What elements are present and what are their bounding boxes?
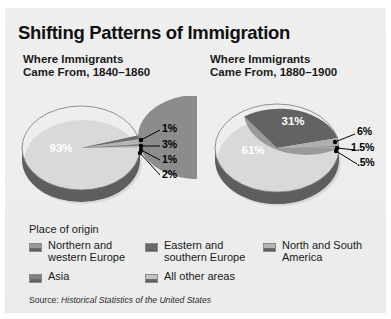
pie-left-callout-1: 1% — [162, 122, 177, 134]
pie-left-callout-3: 1% — [162, 153, 177, 165]
pie-chart-1840-1860: 93% 1% 3% 1% 2% — [17, 96, 197, 211]
legend-item-asia: Asia — [29, 271, 141, 283]
legend-item-label: All other areas — [164, 271, 235, 283]
pie-left-callout-4: 2% — [162, 168, 177, 180]
chart-subtitle-left: Where Immigrants Came From, 1840–1860 — [23, 53, 150, 79]
legend-item-eastern-southern-europe: Eastern and southern Europe — [145, 240, 257, 263]
pie-right-second-value: 31% — [281, 115, 304, 127]
pie-left-main-value: 93% — [49, 142, 72, 154]
figure-panel: Shifting Patterns of Immigration Where I… — [5, 8, 386, 313]
legend-swatch-icon — [263, 243, 276, 252]
legend-swatch-icon — [29, 243, 42, 252]
chart-subtitle-left-line2: Came From, 1840–1860 — [23, 66, 150, 79]
pie-left-callout-2: 3% — [162, 138, 177, 150]
legend-item-all-other-areas: All other areas — [145, 271, 263, 283]
source-title: Historical Statistics of the United Stat… — [61, 295, 211, 305]
legend-swatch-icon — [145, 243, 158, 252]
pie-right-main-value: 61% — [241, 144, 264, 156]
legend-item-northern-western-europe: Northern and western Europe — [29, 240, 141, 263]
legend-item-north-south-america: North and South America — [263, 240, 381, 263]
chart-subtitle-left-line1: Where Immigrants — [23, 53, 150, 66]
legend-item-label: Eastern and southern Europe — [164, 240, 245, 263]
pie-right-callout-2: 1.5% — [351, 141, 374, 153]
legend-swatch-icon — [29, 274, 42, 283]
legend-item-label: Northern and western Europe — [48, 240, 125, 263]
legend-heading: Place of origin — [29, 223, 99, 235]
chart-subtitle-right-line1: Where Immigrants — [210, 53, 337, 66]
page-title: Shifting Patterns of Immigration — [18, 22, 290, 44]
legend-swatch-icon — [145, 274, 158, 283]
chart-subtitle-right-line2: Came From, 1880–1900 — [210, 66, 337, 79]
source-line: Source: Historical Statistics of the Uni… — [29, 295, 211, 305]
source-label: Source: — [29, 295, 61, 305]
chart-subtitle-right: Where Immigrants Came From, 1880–1900 — [210, 53, 337, 79]
pie-right-callout-1: 6% — [357, 125, 372, 137]
legend-item-label: North and South America — [282, 240, 362, 263]
pie-right-callout-3: .5% — [357, 156, 375, 168]
pie-chart-1880-1900: 61% 31% 6% 1.5% .5% — [205, 94, 390, 209]
legend-item-label: Asia — [48, 271, 69, 283]
